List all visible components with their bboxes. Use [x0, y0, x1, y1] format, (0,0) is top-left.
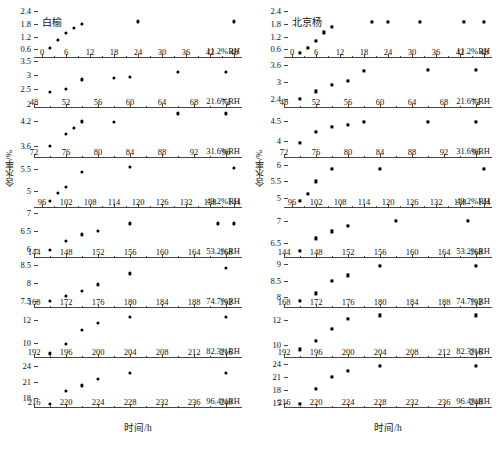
data-point: [298, 403, 301, 406]
x-tick-label: 24: [384, 48, 393, 57]
data-point: [482, 20, 485, 23]
y-tick-mark: [284, 377, 288, 378]
y-tick-mark: [34, 146, 38, 147]
y-tick-label: 12: [23, 315, 35, 324]
data-point: [224, 316, 227, 319]
data-point: [128, 371, 131, 374]
y-tick-mark: [284, 141, 288, 142]
x-tick-label: 36: [182, 48, 191, 57]
y-tick-mark: [34, 398, 38, 399]
x-tick-label: 84: [126, 148, 135, 157]
rh-annotation: 31.6%RH: [206, 146, 240, 156]
data-point: [298, 97, 301, 100]
y-tick-mark: [34, 382, 38, 383]
data-point: [298, 299, 301, 302]
data-point: [232, 20, 235, 23]
y-tick-label: 2.5: [20, 85, 34, 94]
y-tick-label: 15: [273, 399, 285, 408]
x-tick-label: 220: [60, 398, 73, 407]
data-point: [474, 264, 477, 267]
data-point: [64, 239, 67, 242]
plot-area: 192196200204208212216101282.3%RH: [284, 308, 492, 358]
x-tick-label: 96: [38, 198, 47, 207]
data-point: [80, 22, 83, 25]
panel-216RH: 4852566064687222.533.521.6%RH: [34, 58, 242, 108]
x-tick-label: 200: [342, 348, 355, 357]
plot-area: 21622022422823223624018212496.4%RH: [34, 358, 242, 408]
data-point: [64, 31, 67, 34]
rh-annotation: 43.2%RH: [456, 196, 490, 206]
y-tick-mark: [34, 121, 38, 122]
x-tick-minor: [114, 406, 115, 409]
y-tick-mark: [284, 121, 288, 122]
x-tick-label: 192: [278, 348, 291, 357]
data-point: [314, 339, 317, 342]
data-point: [386, 20, 389, 23]
x-tick-label: 228: [124, 398, 137, 407]
data-point: [216, 222, 219, 225]
rh-annotation: 74.7%RH: [206, 296, 240, 306]
x-tick-label: 68: [440, 98, 449, 107]
x-tick-label: 6: [314, 48, 318, 57]
x-tick-label: 126: [156, 198, 169, 207]
data-point: [48, 299, 51, 302]
rh-annotation: 96.4%RH: [206, 396, 240, 406]
y-tick-mark: [34, 231, 38, 232]
y-tick-mark: [34, 75, 38, 76]
y-tick-mark: [34, 89, 38, 90]
x-tick-label: 236: [438, 398, 451, 407]
x-tick-label: 76: [62, 148, 71, 157]
x-tick-label: 108: [84, 198, 97, 207]
x-tick-label: 132: [430, 198, 443, 207]
rh-annotation: 43.2%RH: [206, 196, 240, 206]
data-point: [48, 352, 51, 355]
data-point: [474, 314, 477, 317]
data-point: [298, 141, 301, 144]
x-tick-minor: [332, 406, 333, 409]
x-tick-label: 204: [374, 348, 387, 357]
data-point: [346, 317, 349, 320]
x-tick-label: 80: [94, 148, 103, 157]
data-point: [362, 120, 365, 123]
data-point: [314, 237, 317, 240]
data-point: [48, 144, 51, 147]
x-tick-label: 160: [406, 248, 419, 257]
panel-432RH: 9610210811412012613213814455.5643.2%RH: [284, 158, 492, 208]
data-point: [314, 90, 317, 93]
data-point: [330, 376, 333, 379]
data-point: [306, 192, 309, 195]
data-point: [224, 371, 227, 374]
x-tick-label: 126: [406, 198, 419, 207]
panel-964RH: 2162202242282322362401518212496.4%RH: [284, 358, 492, 408]
data-point: [330, 167, 333, 170]
data-point: [426, 120, 429, 123]
x-tick-label: 92: [440, 148, 449, 157]
y-tick-label: 24: [273, 360, 285, 369]
data-point: [394, 219, 397, 222]
x-tick-label: 204: [124, 348, 137, 357]
y-tick-mark: [284, 221, 288, 222]
y-tick-mark: [284, 198, 288, 199]
y-tick-mark: [284, 345, 288, 346]
panel-964RH: 21622022422823223624018212496.4%RH: [34, 358, 242, 408]
data-point: [330, 126, 333, 129]
x-tick-label: 144: [278, 248, 291, 257]
y-tick-mark: [284, 24, 288, 25]
x-tick-label: 224: [92, 398, 105, 407]
plot-area: 1441481521561601641686.5753.2%RH: [284, 208, 492, 258]
y-tick-label: 1.2: [270, 32, 284, 41]
y-axis-label: 含水率/%: [252, 150, 265, 187]
data-point: [136, 20, 139, 23]
panel-823RH: 192196200204208212216101282.3%RH: [34, 308, 242, 358]
data-point: [112, 76, 115, 79]
data-point: [56, 191, 59, 194]
data-point: [48, 248, 51, 251]
data-point: [128, 222, 131, 225]
plot-area: 16817217618018418819288.5974.7%RH: [284, 258, 492, 308]
x-tick-label: 18: [110, 48, 119, 57]
data-point: [224, 266, 227, 269]
x-tick-label: 114: [108, 198, 120, 207]
y-tick-label: 3.6: [20, 141, 34, 150]
data-point: [48, 403, 51, 406]
x-tick-label: 148: [310, 248, 323, 257]
